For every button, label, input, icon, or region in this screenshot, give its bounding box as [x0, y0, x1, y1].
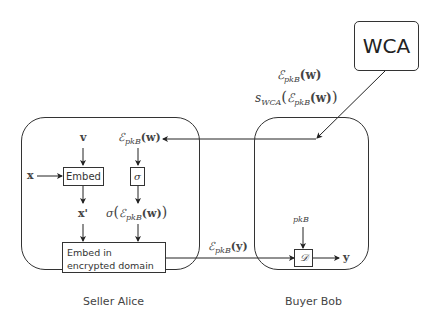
sigma-box: σ: [130, 167, 145, 186]
input-x: x: [27, 169, 34, 182]
embed-encrypted-domain-box: Embed in encrypted domain: [62, 242, 166, 273]
wca-message-line2: sWCA(ℰpkB(w)): [255, 88, 338, 107]
decrypt-box: 𝒟: [294, 249, 313, 267]
encrypted-watermark-node: ℰpkB(w): [118, 131, 161, 146]
output-y: y: [343, 251, 349, 264]
encrypted-content-label: ℰpkB(y): [208, 240, 248, 255]
watermarked-x-prime: x': [78, 207, 88, 220]
buyer-bob-panel: [254, 117, 369, 270]
seller-alice-label: Seller Alice: [83, 295, 144, 308]
embed-box: Embed: [63, 167, 104, 186]
buyer-bob-label: Buyer Bob: [285, 295, 342, 308]
public-key-pkB: pkB: [293, 215, 309, 224]
wca-message-line1: ℰpkB(w): [277, 68, 322, 84]
wca-box: WCA: [354, 21, 419, 71]
input-v: v: [80, 131, 86, 144]
permuted-encrypted-watermark: σ(ℰpkB(w)): [106, 204, 167, 222]
wca-label: WCA: [363, 34, 410, 58]
